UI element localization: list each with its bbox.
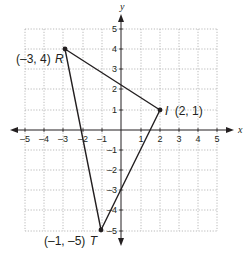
x-tick-label: –3	[58, 134, 68, 144]
y-tick-label: 2	[112, 84, 117, 94]
coordinate-plane: –5 –4 –3 –2 –1 1 2 3 4 5 5 4 3 2 1 –1 –2…	[0, 0, 244, 264]
x-tick-label: –5	[20, 134, 30, 144]
x-axis-arrow-left-icon	[10, 127, 18, 133]
x-axis-label: x	[237, 124, 243, 135]
y-tick-label: 5	[112, 24, 117, 34]
vertex-i-coords: (2, 1)	[175, 104, 203, 118]
vertex-t-coords: (–1, –5)	[44, 234, 85, 248]
y-tick-label: 3	[112, 64, 117, 74]
vertex-t-point	[99, 228, 104, 233]
vertex-i-point	[158, 108, 163, 113]
vertex-r-coords: (–3, 4)	[16, 52, 51, 66]
vertex-i-label: I (2, 1)	[165, 104, 203, 118]
y-tick-label: 4	[112, 44, 117, 54]
x-tick-label: 3	[176, 134, 181, 144]
y-tick-label: –5	[107, 226, 117, 236]
x-tick-label: –4	[39, 134, 49, 144]
vertex-r-point	[63, 47, 68, 52]
y-tick-label: –1	[107, 145, 117, 155]
x-tick-labels: –5 –4 –3 –2 –1 1 2 3 4 5	[20, 134, 220, 144]
y-tick-label: 1	[112, 105, 117, 115]
vertex-i-letter: I	[165, 104, 169, 118]
vertex-t-label: (–1, –5) T	[44, 234, 99, 248]
x-axis-arrow-right-icon	[226, 127, 234, 133]
y-axis-arrow-down-icon	[118, 238, 124, 246]
x-tick-label: –1	[97, 134, 107, 144]
x-tick-label: 5	[214, 134, 219, 144]
x-tick-label: 2	[157, 134, 162, 144]
y-axis-arrow-up-icon	[118, 14, 124, 22]
x-tick-label: 4	[195, 134, 200, 144]
y-axis-label: y	[119, 1, 125, 12]
vertex-t-letter: T	[90, 234, 99, 248]
y-tick-label: –2	[107, 165, 117, 175]
x-tick-label: 1	[138, 134, 143, 144]
vertex-r-label: (–3, 4) R	[16, 52, 64, 66]
vertex-r-letter: R	[55, 52, 64, 66]
y-tick-label: –3	[107, 185, 117, 195]
